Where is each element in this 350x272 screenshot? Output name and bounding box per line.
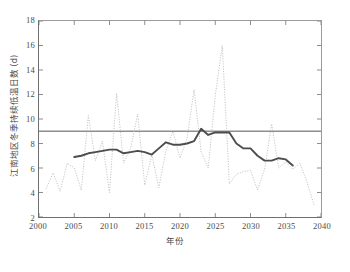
y-tick-label: 12 bbox=[26, 89, 35, 99]
plot-area bbox=[38, 20, 322, 218]
x-tick-label: 2015 bbox=[136, 221, 154, 231]
x-tick-label: 2010 bbox=[100, 221, 118, 231]
y-tick-label: 16 bbox=[26, 40, 35, 50]
y-axis-title: 江南地区冬季持续低温日数 (d) bbox=[7, 11, 19, 221]
y-tick-label: 10 bbox=[26, 114, 35, 124]
x-tick-label: 2020 bbox=[171, 221, 189, 231]
x-tick-label: 2035 bbox=[278, 221, 296, 231]
x-tick-label: 2040 bbox=[313, 221, 331, 231]
chart-figure: 24681012141618 2000200520102015202020252… bbox=[0, 0, 350, 272]
y-tick-label: 8 bbox=[31, 139, 35, 149]
y-tick-label: 14 bbox=[26, 65, 35, 75]
plot-canvas bbox=[39, 21, 321, 217]
y-tick-label: 6 bbox=[31, 164, 35, 174]
chart-svg bbox=[39, 21, 321, 217]
y-tick-label: 18 bbox=[26, 15, 35, 25]
y-axis-title-box: 江南地区冬季持续低温日数 (d) bbox=[0, 0, 14, 220]
x-tick-label: 2030 bbox=[242, 221, 260, 231]
series-annual-line bbox=[46, 46, 314, 205]
x-tick-label: 2005 bbox=[65, 221, 83, 231]
x-axis-tick-labels: 200020052010201520202025203020352040 bbox=[0, 221, 350, 235]
x-axis-title: 年份 bbox=[0, 234, 350, 246]
x-tick-label: 2025 bbox=[207, 221, 225, 231]
x-tick-label: 2000 bbox=[29, 221, 47, 231]
y-tick-label: 4 bbox=[31, 188, 35, 198]
